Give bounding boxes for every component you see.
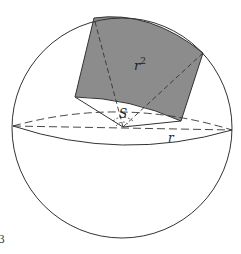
- equator-front-arc: [13, 126, 232, 145]
- sphere-diagram: r2 S r 3: [0, 0, 241, 254]
- cone-edge-bottom-right: [123, 121, 181, 127]
- figure-number-fragment: 3: [0, 233, 5, 246]
- radius-label: r: [168, 131, 175, 145]
- solid-angle-label: S: [119, 107, 127, 121]
